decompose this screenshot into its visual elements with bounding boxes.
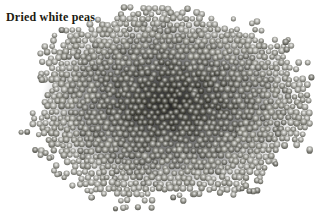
pea [107,92,113,98]
pea [126,146,132,152]
pea [104,175,110,181]
pea [252,124,258,130]
pea [295,59,302,66]
pea [170,125,176,131]
pea [214,70,220,76]
pea [295,87,302,94]
pea [95,82,101,88]
pea [268,120,274,126]
pea [156,66,161,71]
pea [275,131,281,137]
pea [105,131,110,136]
pea [112,76,118,82]
pea [96,59,102,65]
pea [217,42,223,48]
pea [217,190,223,196]
pea [274,65,280,71]
pea [96,48,102,54]
pea [101,191,107,197]
pea [108,158,114,164]
pea [76,38,82,44]
pea [92,64,99,71]
pea [148,173,155,180]
pea [123,175,129,181]
pea [53,130,60,137]
pea [176,147,182,153]
pea [273,147,279,153]
pea [79,31,85,37]
pea [60,42,66,48]
pea [293,130,299,136]
pea [155,33,162,40]
pea [49,65,55,71]
pea [73,110,79,116]
pea [122,131,129,138]
pea [155,153,161,159]
pea [261,43,268,50]
pea [48,141,55,148]
pea [160,22,166,28]
pea [174,152,180,158]
pea [213,60,220,67]
pea [177,136,183,142]
pea-pile-image [0,0,322,214]
pea [123,43,130,50]
pea [139,59,146,66]
pea [92,141,99,148]
pea [92,42,99,49]
pea [200,109,207,116]
pea [249,20,255,26]
pea [115,103,120,108]
pea [237,43,243,49]
pea [85,141,92,148]
pea [76,116,82,122]
pea [206,87,212,93]
pea [143,87,149,93]
pea [136,185,142,191]
pea [127,4,133,10]
pea [193,53,200,60]
pea [284,136,290,142]
pea [72,163,78,169]
pea [230,87,236,93]
pea [176,82,182,88]
pea [63,136,70,143]
pea [300,86,306,92]
pea [284,46,290,52]
pea [114,168,120,174]
pea [198,88,204,94]
pea [170,114,176,120]
pea [101,169,107,175]
pea [89,37,95,43]
pea [212,153,218,159]
pea [126,92,132,98]
pea [253,136,259,142]
pea [210,43,216,49]
pea [231,16,236,21]
pea [156,10,162,16]
pea [205,97,211,103]
pea [208,168,214,174]
pea [253,71,259,77]
pea [225,76,230,81]
pea [231,65,237,71]
pea [186,22,192,28]
pea [161,130,167,136]
pea [243,53,249,59]
pea [272,37,278,43]
pea [192,65,198,71]
pea [180,75,186,81]
pea [159,81,165,87]
pea [297,125,303,131]
pea [135,152,142,159]
pea [105,163,111,169]
pea [244,86,250,92]
pea [187,185,193,191]
pea [164,158,170,164]
pea [101,158,108,165]
pea [168,141,173,146]
pea [41,130,47,136]
pea [260,147,266,153]
pea [115,158,121,164]
pea [227,48,233,54]
